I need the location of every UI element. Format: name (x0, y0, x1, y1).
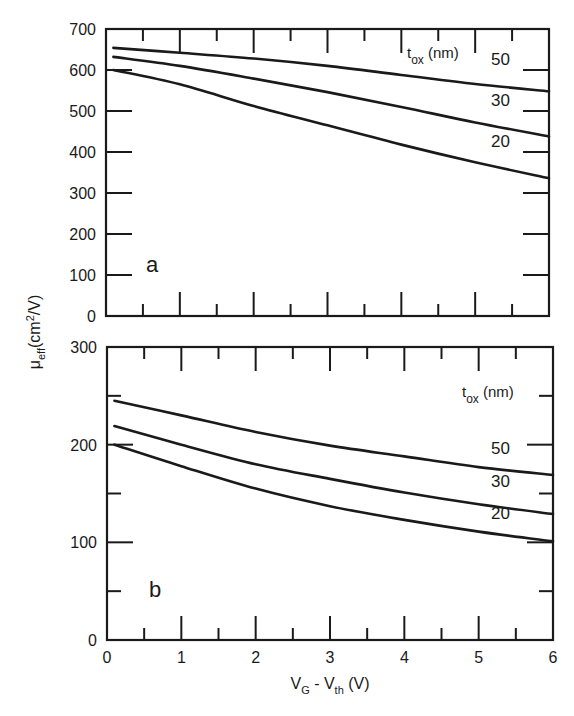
x-tick-label: 5 (474, 649, 483, 666)
x-axis-label: VG - Vth (V) (290, 675, 369, 696)
series-line-50nm (114, 401, 553, 475)
panel-b-label: b (149, 577, 161, 602)
legend-title-b: tox (nm) (462, 383, 514, 406)
y-tick-label: 200 (69, 226, 96, 243)
mobility-chart: 0100200300400500600700503020 01002003000… (0, 0, 574, 716)
y-tick-label: 300 (70, 339, 97, 356)
y-tick-label: 0 (87, 308, 96, 325)
series-label-20nm: 20 (491, 132, 510, 151)
y-tick-label: 200 (70, 437, 97, 454)
series-label-30nm: 30 (491, 472, 510, 491)
legend-title-a: tox (nm) (407, 44, 459, 67)
x-tick-label: 0 (103, 649, 112, 666)
series-label-50nm: 50 (491, 439, 510, 458)
panel-a: 0100200300400500600700503020 (69, 21, 549, 325)
x-tick-label: 1 (177, 649, 186, 666)
series-line-30nm (114, 426, 553, 514)
y-tick-label: 700 (69, 21, 96, 38)
y-tick-label: 400 (69, 144, 96, 161)
series-label-50nm: 50 (491, 50, 510, 69)
x-tick-label: 2 (251, 649, 260, 666)
plot-frame (106, 29, 549, 316)
series-line-30nm (113, 57, 549, 137)
y-tick-label: 100 (69, 267, 96, 284)
y-tick-label: 600 (69, 62, 96, 79)
series-label-20nm: 20 (491, 504, 510, 523)
y-tick-label: 500 (69, 103, 96, 120)
y-tick-label: 0 (88, 632, 97, 649)
y-tick-label: 300 (69, 185, 96, 202)
y-axis-label: μeff(cm2/V) (24, 295, 47, 369)
x-tick-label: 6 (549, 649, 558, 666)
panel-a-label: a (146, 252, 159, 277)
series-line-20nm (114, 445, 553, 542)
x-tick-label: 3 (326, 649, 335, 666)
y-tick-label: 100 (70, 534, 97, 551)
series-label-30nm: 30 (491, 91, 510, 110)
x-tick-label: 4 (400, 649, 409, 666)
